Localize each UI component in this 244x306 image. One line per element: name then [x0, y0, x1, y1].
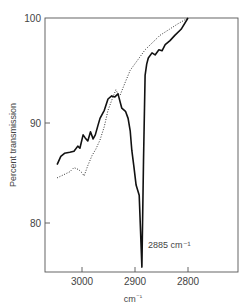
y-axis-title: Percent transmission — [8, 103, 18, 187]
y-tick-100: 100 — [24, 13, 41, 24]
x-axis-title: cm⁻¹ — [124, 293, 143, 304]
x-tick-2800: 2800 — [177, 276, 200, 287]
x-tick-2900: 2900 — [124, 276, 147, 287]
peak-annotation: 2885 cm⁻¹ — [148, 240, 191, 250]
plot-frame — [45, 18, 238, 272]
y-axis: 100 90 80 Percent transmission — [8, 13, 50, 229]
solid-spectrum-line — [57, 18, 188, 267]
y-tick-80: 80 — [30, 218, 42, 229]
x-axis: 3000 2900 2800 cm⁻¹ — [71, 267, 200, 304]
y-tick-90: 90 — [30, 118, 42, 129]
x-tick-3000: 3000 — [71, 276, 94, 287]
ir-spectrum-chart: 100 90 80 Percent transmission 3000 2900… — [0, 0, 244, 306]
